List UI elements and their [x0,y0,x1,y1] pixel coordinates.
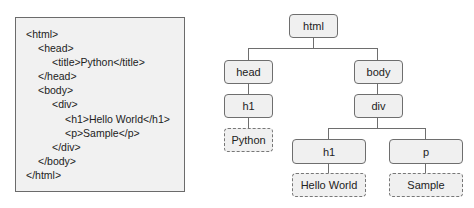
code-line: <h1>Hello World</h1> [26,112,184,126]
connector-line [313,37,314,48]
connector-line [248,117,249,128]
tree-node-html: html [289,14,338,38]
connector-line [377,48,378,60]
html-source-code-box: <html> <head> <title>Python</title> </he… [15,17,185,192]
code-line: <body> [26,83,184,97]
connector-line [248,48,249,60]
tree-node-div: div [354,94,403,118]
tree-node-body: body [354,60,403,84]
tree-node-head-h1: h1 [224,94,273,118]
connector-line [425,163,426,173]
connector-line [328,128,329,139]
connector-line [377,83,378,94]
tree-node-div-h1: h1 [292,139,366,164]
code-line: </body> [26,154,184,168]
code-line: </head> [26,69,184,83]
connector-line [248,83,249,94]
code-line: <title>Python</title> [26,55,184,69]
code-line: </html> [26,168,184,182]
tree-node-head: head [224,60,273,84]
connector-line [328,128,426,129]
tree-text-sample: Sample [389,173,463,197]
connector-line [248,48,378,49]
connector-line [377,117,378,128]
code-line: <p>Sample</p> [26,126,184,140]
code-line: <head> [26,41,184,55]
tree-text-hello-world: Hello World [292,173,366,197]
code-line: <html> [26,27,184,41]
connector-line [425,128,426,139]
code-line: <div> [26,97,184,111]
connector-line [328,163,329,173]
tree-text-python: Python [224,128,273,152]
tree-node-p: p [389,139,463,164]
code-line: </div> [26,140,184,154]
